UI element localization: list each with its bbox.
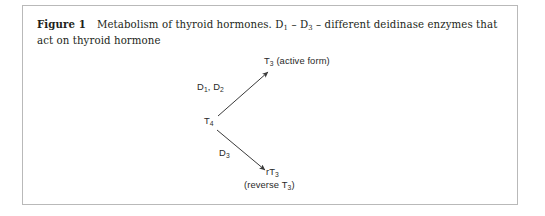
node-t3-suffix: (active form) <box>274 55 330 66</box>
figure-frame: Figure 1Metabolism of thyroid hormones. … <box>22 5 518 205</box>
edge-d3-text: D <box>219 147 226 158</box>
node-rt3-note-prefix: (reverse T <box>244 179 288 190</box>
node-rt3-note-suffix: ) <box>291 179 294 190</box>
edge-d3-subscript: 3 <box>226 152 230 159</box>
edge-d1-text: D <box>197 81 204 92</box>
figure-caption-text-part-1: Metabolism of thyroid hormones. D <box>97 19 284 30</box>
edge-label-d3: D3 <box>219 147 230 158</box>
node-rt3-subscript: 3 <box>275 171 279 178</box>
node-label-t4: T4 <box>204 115 214 126</box>
node-t4-subscript: 4 <box>210 120 214 127</box>
figure-caption-label: Figure 1 <box>37 18 86 30</box>
node-label-rt3-note: (reverse T3) <box>244 179 295 190</box>
node-label-t3-active: T3 (active form) <box>264 55 330 66</box>
figure-caption: Figure 1Metabolism of thyroid hormones. … <box>37 16 503 49</box>
edge-d2-subscript: 2 <box>220 86 224 93</box>
arrow-t4-to-t3 <box>218 72 268 116</box>
figure-caption-text-part-2: – D <box>288 19 308 30</box>
edge-d2-text: , D <box>208 81 220 92</box>
node-rt3-text: rT <box>266 166 275 177</box>
thyroid-metabolism-diagram: T3 (active form) D1, D2 T4 D3 rT3 (rever… <box>23 46 517 204</box>
edge-label-d1-d2: D1, D2 <box>197 81 224 92</box>
node-label-rt3: rT3 <box>266 166 279 177</box>
